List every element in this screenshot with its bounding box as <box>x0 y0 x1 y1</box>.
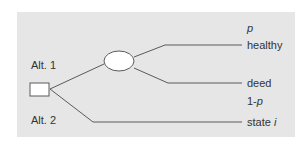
decision-node-icon <box>30 83 49 96</box>
alt-1-label: Alt. 1 <box>31 59 56 71</box>
branch-alt-2 <box>50 89 242 122</box>
probability-1-minus-p-label: 1-p <box>247 95 263 107</box>
state-var: i <box>274 116 276 128</box>
alt-2-label: Alt. 2 <box>31 114 56 126</box>
branch-healthy <box>134 45 242 57</box>
probability-prefix: 1- <box>247 95 257 107</box>
outcome-healthy-label: healthy <box>247 39 282 51</box>
outcome-state-i-label: state i <box>247 116 276 128</box>
decision-tree-figure: Alt. 1 Alt. 2 p healthy deed 1-p state i <box>0 0 307 144</box>
probability-p-label: p <box>247 22 253 34</box>
outcome-deed-label: deed <box>247 77 271 89</box>
probability-var: p <box>257 95 263 107</box>
chance-node-icon <box>104 51 134 71</box>
state-prefix: state <box>247 116 274 128</box>
branch-alt-1 <box>50 64 104 89</box>
branch-deed <box>134 68 242 83</box>
